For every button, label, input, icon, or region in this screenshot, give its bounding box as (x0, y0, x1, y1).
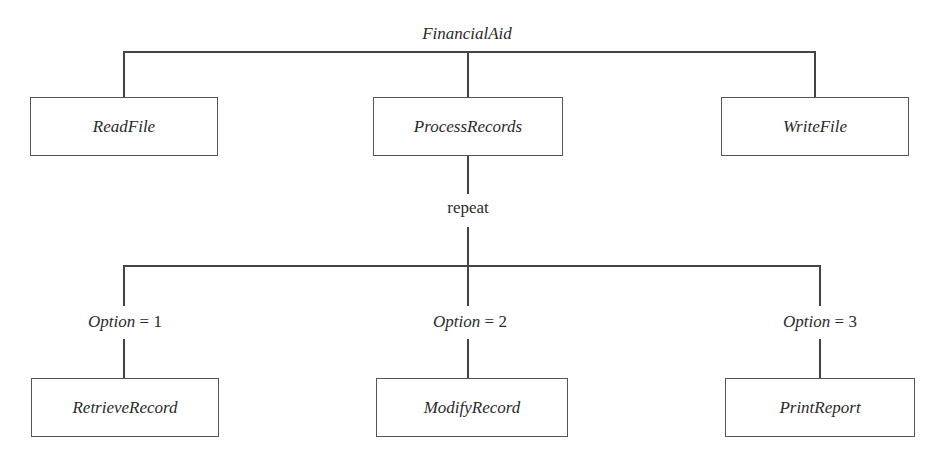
condition-operator: = (480, 312, 498, 331)
option-2-condition: Option = 2 (433, 312, 507, 332)
connector-from-repeat (467, 227, 469, 267)
branch-2-upper (467, 265, 469, 306)
condition-value: 1 (153, 312, 162, 331)
condition-value: 2 (498, 312, 507, 331)
condition-value: 3 (848, 312, 857, 331)
bottom-connector-bar (123, 265, 821, 267)
option-1-condition: Option = 1 (88, 312, 162, 332)
module-label: PrintReport (779, 398, 860, 418)
branch-2-lower (467, 339, 469, 379)
module-label: RetrieveRecord (72, 398, 177, 418)
module-label: WriteFile (783, 117, 847, 137)
module-readfile: ReadFile (30, 97, 218, 156)
option-3-condition: Option = 3 (783, 312, 857, 332)
top-connector-bar (123, 51, 816, 53)
connector-writefile (814, 51, 816, 97)
module-label: ModifyRecord (424, 398, 521, 418)
module-printreport: PrintReport (725, 378, 915, 437)
branch-3-lower (819, 339, 821, 379)
module-writefile: WriteFile (721, 97, 909, 156)
branch-3-upper (819, 265, 821, 306)
condition-variable: Option (88, 312, 135, 331)
condition-operator: = (830, 312, 848, 331)
module-retrieverecord: RetrieveRecord (31, 378, 219, 437)
module-label: ReadFile (93, 117, 155, 137)
repeat-label: repeat (447, 198, 489, 218)
module-label: ProcessRecords (414, 117, 522, 137)
branch-1-upper (123, 265, 125, 306)
condition-variable: Option (433, 312, 480, 331)
connector-readfile (123, 51, 125, 97)
module-processrecords: ProcessRecords (373, 97, 563, 156)
connector-to-repeat (467, 156, 469, 194)
module-modifyrecord: ModifyRecord (376, 378, 568, 437)
condition-variable: Option (783, 312, 830, 331)
connector-processrecords (467, 51, 469, 97)
condition-operator: = (135, 312, 153, 331)
root-module-label: FinancialAid (422, 24, 512, 44)
branch-1-lower (123, 339, 125, 379)
